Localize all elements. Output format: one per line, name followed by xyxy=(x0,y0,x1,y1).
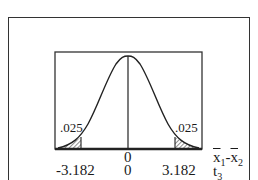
left-tail-area-label: .025 xyxy=(60,121,83,134)
xbar-2: x xyxy=(231,149,239,165)
t-axis-label: t3 xyxy=(213,164,222,180)
t-df-sub: 3 xyxy=(217,171,222,180)
t-axis-tick-left: -3.182 xyxy=(56,163,95,178)
t-axis-tick-right: 3.182 xyxy=(162,163,196,178)
right-tail-area-label: .025 xyxy=(175,121,198,134)
xbar-2-sub: 2 xyxy=(238,157,243,168)
t-axis-tick-center: 0 xyxy=(124,163,132,178)
